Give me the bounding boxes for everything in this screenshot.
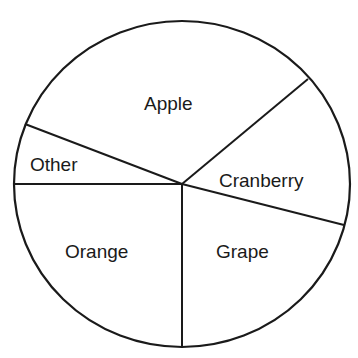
- pie-chart-svg: Apple Cranberry Other Orange Grape: [0, 0, 358, 358]
- slice-label-orange: Orange: [65, 241, 128, 262]
- slice-label-apple: Apple: [144, 93, 193, 114]
- slice-label-other: Other: [30, 154, 78, 175]
- slice-label-grape: Grape: [216, 241, 269, 262]
- pie-chart: Apple Cranberry Other Orange Grape: [0, 0, 358, 358]
- slice-label-cranberry: Cranberry: [219, 170, 304, 191]
